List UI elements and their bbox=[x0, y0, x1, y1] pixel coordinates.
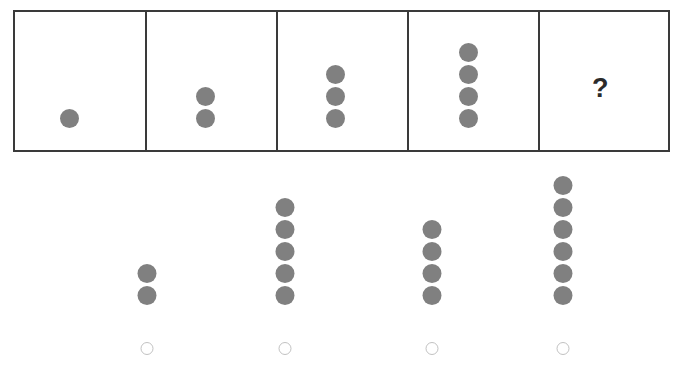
sequence-cell-2 bbox=[145, 12, 276, 150]
dot-stack-4 bbox=[459, 40, 478, 128]
dot bbox=[326, 109, 345, 128]
option-dot-stack-a bbox=[138, 261, 157, 305]
dot bbox=[554, 286, 573, 305]
answer-option-a[interactable] bbox=[97, 160, 197, 366]
dot bbox=[326, 65, 345, 84]
dot bbox=[554, 198, 573, 217]
sequence-cell-4 bbox=[407, 12, 538, 150]
dot bbox=[459, 43, 478, 62]
dot-series-puzzle: ? bbox=[0, 0, 683, 366]
sequence-cell-5-unknown: ? bbox=[538, 12, 668, 150]
dot bbox=[276, 286, 295, 305]
answer-radio-b[interactable] bbox=[279, 342, 292, 355]
dot bbox=[554, 220, 573, 239]
dot bbox=[423, 220, 442, 239]
dot-stack-2 bbox=[196, 84, 215, 128]
dot bbox=[423, 286, 442, 305]
dot bbox=[459, 87, 478, 106]
sequence-grid: ? bbox=[13, 10, 670, 152]
answer-options bbox=[0, 160, 683, 366]
answer-option-d[interactable] bbox=[513, 160, 613, 366]
dot bbox=[326, 87, 345, 106]
dot bbox=[423, 264, 442, 283]
answer-option-b[interactable] bbox=[235, 160, 335, 366]
dot bbox=[60, 109, 79, 128]
answer-radio-d[interactable] bbox=[557, 342, 570, 355]
dot bbox=[459, 109, 478, 128]
dot bbox=[138, 286, 157, 305]
dot-stack-3 bbox=[326, 62, 345, 128]
answer-option-c[interactable] bbox=[382, 160, 482, 366]
dot bbox=[138, 264, 157, 283]
dot bbox=[554, 242, 573, 261]
dot bbox=[276, 220, 295, 239]
dot bbox=[276, 198, 295, 217]
dot-stack-1 bbox=[60, 106, 79, 128]
dot bbox=[554, 264, 573, 283]
answer-radio-c[interactable] bbox=[426, 342, 439, 355]
dot bbox=[459, 65, 478, 84]
answer-radio-a[interactable] bbox=[141, 342, 154, 355]
question-mark: ? bbox=[592, 75, 609, 102]
option-dot-stack-b bbox=[276, 195, 295, 305]
sequence-cell-3 bbox=[276, 12, 407, 150]
option-dot-stack-c bbox=[423, 217, 442, 305]
dot bbox=[423, 242, 442, 261]
option-dot-stack-d bbox=[554, 173, 573, 305]
dot bbox=[196, 87, 215, 106]
dot bbox=[276, 264, 295, 283]
sequence-cell-1 bbox=[15, 12, 145, 150]
dot bbox=[276, 242, 295, 261]
dot bbox=[554, 176, 573, 195]
dot bbox=[196, 109, 215, 128]
